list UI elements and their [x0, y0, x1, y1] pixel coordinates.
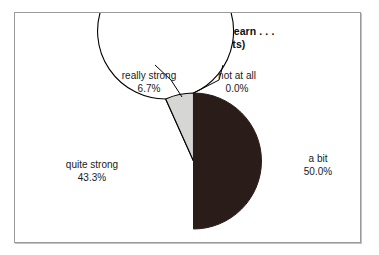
pie-label-a-bit-value: 50.0% — [287, 166, 349, 179]
pie-label-not-at-all-name: not at all — [218, 70, 256, 81]
pie-slice-really-strong[interactable] — [166, 93, 194, 161]
pie-label-really-strong-value: 6.7% — [107, 83, 191, 96]
pie-label-quite-strong: quite strong 43.3% — [47, 159, 137, 184]
pie-label-really-strong: really strong 6.7% — [107, 70, 191, 95]
pie-label-not-at-all: not at all 0.0% — [201, 70, 273, 95]
pie-label-really-strong-name: really strong — [122, 70, 176, 81]
pie-label-quite-strong-name: quite strong — [66, 159, 118, 170]
pie-label-a-bit-name: a bit — [309, 153, 328, 164]
pie-svg — [15, 13, 362, 244]
chart-frame: Friends encourage me to learn . . . Germ… — [14, 12, 361, 243]
pie-label-not-at-all-value: 0.0% — [201, 83, 273, 96]
pie-slice-a-bit[interactable] — [194, 93, 262, 229]
pie-chart: really strong 6.7% not at all 0.0% quite… — [15, 13, 362, 244]
pie-label-a-bit: a bit 50.0% — [287, 153, 349, 178]
pie-label-quite-strong-value: 43.3% — [47, 172, 137, 185]
